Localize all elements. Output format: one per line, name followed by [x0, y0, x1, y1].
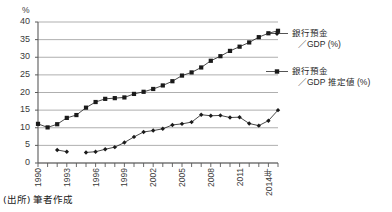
series-line-square	[38, 31, 278, 128]
data-point-square-2009	[218, 54, 222, 58]
legend-label-line2-1: ／GDP (%)	[292, 39, 341, 50]
data-point-diamond-1999	[122, 140, 126, 144]
legend-label-line2-2: ／GDP 推定値 (%)	[292, 77, 370, 88]
data-point-diamond-2012	[247, 121, 251, 125]
legend-marker-square-2	[275, 69, 279, 73]
data-point-square-1996	[94, 100, 98, 104]
data-point-diamond-2002	[151, 128, 155, 132]
data-point-diamond-2005	[180, 122, 184, 126]
data-point-diamond-2010	[228, 115, 232, 119]
legend-entry-1: 銀行預金／GDP (%)	[292, 28, 341, 50]
y-axis-tick-20: 20	[14, 87, 30, 97]
data-point-square-2011	[238, 45, 242, 49]
x-axis-tick-1993: 1993	[62, 168, 72, 187]
data-point-square-1992	[55, 122, 59, 126]
data-point-square-2006	[190, 70, 194, 74]
data-point-diamond-1995	[84, 150, 88, 154]
data-point-diamond-2009	[218, 113, 222, 117]
data-point-square-2007	[199, 65, 203, 69]
data-point-square-2002	[151, 87, 155, 91]
data-point-square-1994	[74, 113, 78, 117]
data-point-diamond-2000	[132, 135, 136, 139]
data-point-diamond-1992	[55, 148, 59, 152]
data-point-square-1990	[36, 122, 40, 126]
y-axis-tick-40: 40	[14, 16, 30, 26]
y-axis-tick-10: 10	[14, 122, 30, 132]
data-point-diamond-2013	[257, 123, 261, 127]
chart-figure: % 0510152025303540 199019931996199920022…	[0, 0, 392, 212]
data-point-square-2013	[257, 35, 261, 39]
data-point-diamond-1993	[65, 150, 69, 154]
data-point-square-2004	[170, 79, 174, 83]
data-point-square-1995	[84, 106, 88, 110]
legend-label-line1-1: 銀行預金	[292, 28, 341, 39]
legend-label-line1-2: 銀行預金	[292, 66, 370, 77]
source-note: (出所) 筆者作成	[3, 192, 73, 206]
data-point-square-1997	[103, 97, 107, 101]
data-point-diamond-2001	[141, 130, 145, 134]
data-point-diamond-2008	[209, 114, 213, 118]
data-point-square-2001	[142, 90, 146, 94]
data-point-square-2000	[132, 92, 136, 96]
data-point-square-2008	[209, 59, 213, 63]
x-axis-tick-2008: 2008	[206, 168, 216, 187]
x-axis-tick-2011: 2011	[235, 168, 245, 186]
x-axis-tick-1999: 1999	[119, 168, 129, 187]
data-point-square-2012	[247, 40, 251, 44]
data-point-square-1999	[122, 95, 126, 99]
data-point-square-1991	[46, 125, 50, 129]
y-axis-tick-0: 0	[14, 157, 30, 167]
y-axis-tick-15: 15	[14, 104, 30, 114]
x-axis-tick-2014: 2014年	[263, 168, 275, 196]
x-axis-tick-1990: 1990	[33, 168, 43, 187]
x-axis-tick-1996: 1996	[91, 168, 101, 187]
data-point-square-1993	[65, 116, 69, 120]
y-axis-tick-30: 30	[14, 51, 30, 61]
data-point-diamond-2011	[237, 115, 241, 119]
data-point-diamond-2004	[170, 123, 174, 127]
data-point-square-1998	[113, 96, 117, 100]
data-point-diamond-1997	[103, 147, 107, 151]
y-axis-tick-35: 35	[14, 34, 30, 44]
data-point-square-2005	[180, 73, 184, 77]
data-point-square-2010	[228, 49, 232, 53]
data-point-diamond-1996	[93, 150, 97, 154]
y-axis-tick-25: 25	[14, 69, 30, 79]
y-axis-tick-5: 5	[14, 139, 30, 149]
x-axis-tick-2005: 2005	[177, 168, 187, 187]
data-point-square-2003	[161, 83, 165, 87]
data-point-diamond-2003	[161, 127, 165, 131]
legend-entry-2: 銀行預金／GDP 推定値 (%)	[292, 66, 370, 88]
x-axis-tick-2002: 2002	[148, 168, 158, 187]
